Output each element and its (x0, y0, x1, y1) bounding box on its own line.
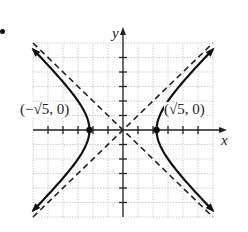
left-vertex-label: (−√5, 0) (20, 102, 69, 117)
x-axis-label: x (221, 133, 228, 148)
y-axis-label: y (112, 26, 119, 41)
right-vertex-label: (√5, 0) (164, 102, 205, 117)
